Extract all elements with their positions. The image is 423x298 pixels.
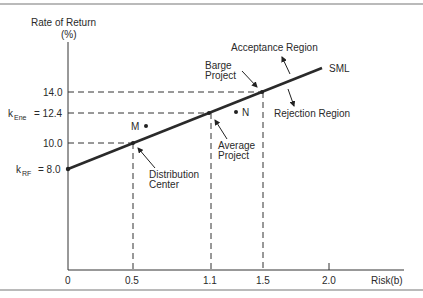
x-axis-label: Risk(b) bbox=[371, 275, 403, 286]
x-tick-11: 1.1 bbox=[203, 275, 217, 286]
y-tick-10: 10.0 bbox=[43, 138, 63, 149]
n-label: N bbox=[242, 107, 249, 118]
average-project-label-line2: Project bbox=[218, 150, 249, 161]
sml-label: SML bbox=[329, 63, 350, 74]
y-tick-kEne-sub: Ene bbox=[14, 114, 27, 121]
rejection-arrow bbox=[288, 89, 294, 106]
m-label: M bbox=[131, 121, 139, 132]
distribution-center-point bbox=[131, 141, 135, 145]
y-tick-14: 14.0 bbox=[43, 87, 63, 98]
y-axis-label-line2: (%) bbox=[61, 29, 77, 40]
barge-project-point bbox=[260, 90, 264, 94]
average-project-point bbox=[207, 111, 211, 115]
y-tick-8: = 8.0 bbox=[38, 164, 61, 175]
rejection-region-label: Rejection Region bbox=[274, 108, 350, 119]
distribution-arrow bbox=[138, 148, 155, 168]
x-tick-0: 0 bbox=[65, 275, 71, 286]
m-point bbox=[144, 124, 148, 128]
y-tick-124: = 12.4 bbox=[34, 108, 63, 119]
sml-chart: Rate of Return (%) 14.0 k Ene = 12.4 10.… bbox=[0, 0, 423, 298]
n-point bbox=[234, 110, 238, 114]
x-tick-05: 0.5 bbox=[125, 275, 139, 286]
x-tick-15: 1.5 bbox=[256, 275, 270, 286]
distribution-center-label-line2: Center bbox=[149, 179, 180, 190]
y-tick-kRF-sub: RF bbox=[22, 170, 31, 177]
x-tick-20: 2.0 bbox=[322, 275, 336, 286]
y-axis-label-line1: Rate of Return bbox=[31, 17, 96, 28]
acceptance-region-label: Acceptance Region bbox=[231, 42, 318, 53]
acceptance-arrow bbox=[282, 57, 290, 74]
barge-project-label-line2: Project bbox=[205, 70, 236, 81]
average-arrow bbox=[215, 120, 227, 139]
krf-point bbox=[66, 167, 70, 171]
barge-arrow bbox=[242, 71, 257, 87]
